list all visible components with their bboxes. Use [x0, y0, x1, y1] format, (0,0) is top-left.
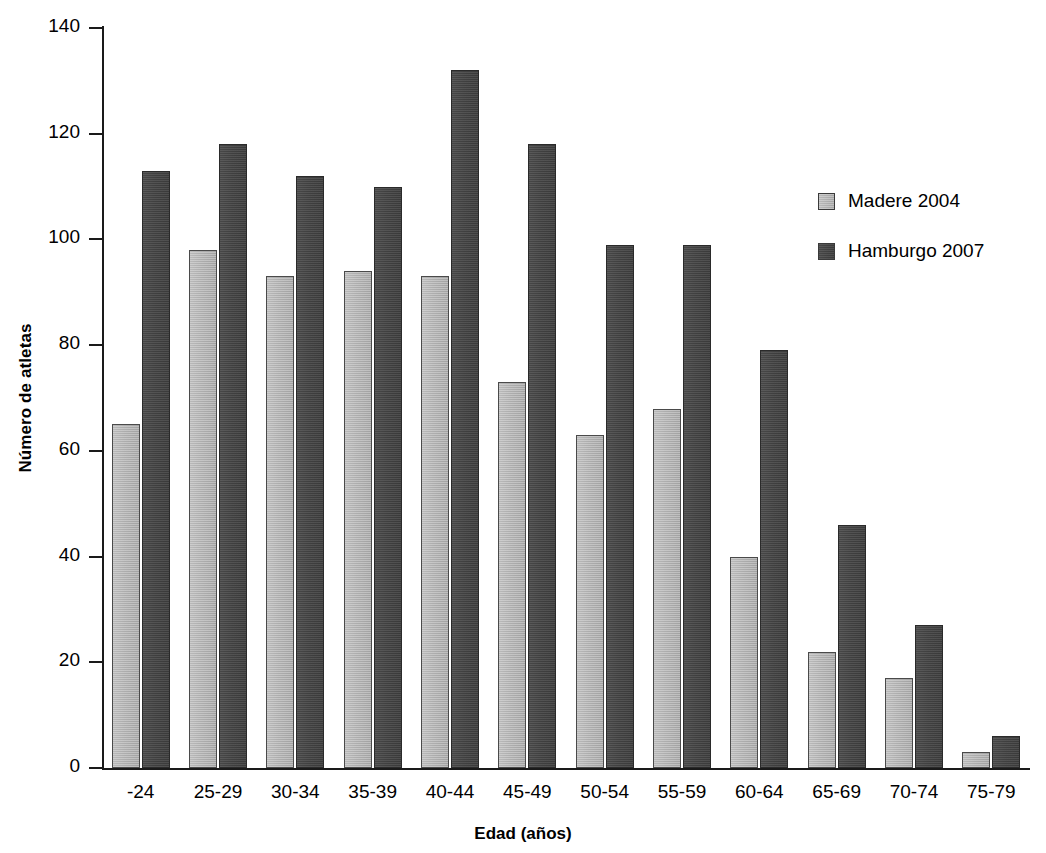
bar-madere-2004: [962, 752, 990, 768]
bar-hamburgo-2007: [992, 736, 1020, 768]
x-axis-tick-label: 25-29: [179, 781, 256, 803]
legend-label: Hamburgo 2007: [848, 240, 984, 262]
y-axis-tick: [89, 344, 102, 346]
bar-group: [875, 28, 952, 768]
bar-hamburgo-2007: [219, 144, 247, 768]
y-axis-tick: [89, 661, 102, 663]
bar-madere-2004: [730, 557, 758, 768]
bar-chart: Número de atletas 020406080100120140 -24…: [0, 0, 1046, 853]
x-axis-line: [102, 768, 1030, 770]
x-axis-tick-label: 60-64: [721, 781, 798, 803]
y-axis-tick: [89, 556, 102, 558]
x-axis-tick-label: -24: [102, 781, 179, 803]
y-axis-tick-label: 100: [0, 226, 80, 248]
x-axis-tick-label: 30-34: [257, 781, 334, 803]
bar-madere-2004: [344, 271, 372, 768]
y-axis-tick: [89, 450, 102, 452]
legend-label: Madere 2004: [848, 190, 960, 212]
x-axis-tick-label: 45-49: [489, 781, 566, 803]
bar-madere-2004: [653, 409, 681, 768]
chart-legend: Madere 2004Hamburgo 2007: [818, 190, 984, 290]
x-axis-tick-label: 75-79: [953, 781, 1030, 803]
bar-group: [721, 28, 798, 768]
y-axis-tick: [89, 133, 102, 135]
bar-group: [798, 28, 875, 768]
bar-group: [953, 28, 1030, 768]
bar-group: [411, 28, 488, 768]
bar-group: [102, 28, 179, 768]
y-axis-tick: [89, 27, 102, 29]
bar-madere-2004: [808, 652, 836, 768]
bar-madere-2004: [189, 250, 217, 768]
legend-swatch-icon: [818, 243, 835, 260]
bar-hamburgo-2007: [838, 525, 866, 768]
bar-hamburgo-2007: [296, 176, 324, 768]
y-axis-tick-label: 120: [0, 121, 80, 143]
bar-hamburgo-2007: [606, 245, 634, 768]
bar-hamburgo-2007: [915, 625, 943, 768]
y-axis-tick: [89, 238, 102, 240]
bar-madere-2004: [112, 424, 140, 768]
legend-item: Madere 2004: [818, 190, 984, 212]
y-axis-tick-label: 20: [0, 649, 80, 671]
y-axis-tick-label: 0: [0, 755, 80, 777]
bar-group: [334, 28, 411, 768]
x-axis-tick-label: 40-44: [411, 781, 488, 803]
bar-group: [179, 28, 256, 768]
bar-madere-2004: [266, 276, 294, 768]
x-axis-title: Edad (años): [0, 824, 1046, 844]
y-axis-tick: [89, 767, 102, 769]
bar-madere-2004: [885, 678, 913, 768]
y-axis-tick-label: 60: [0, 438, 80, 460]
plot-area: [102, 28, 1030, 768]
bar-hamburgo-2007: [374, 187, 402, 768]
x-axis-tick-label: 65-69: [798, 781, 875, 803]
legend-item: Hamburgo 2007: [818, 240, 984, 262]
y-axis-tick-label: 40: [0, 544, 80, 566]
x-axis-tick-label: 50-54: [566, 781, 643, 803]
y-axis-tick-label: 140: [0, 15, 80, 37]
bar-hamburgo-2007: [142, 171, 170, 768]
bar-group: [489, 28, 566, 768]
bar-madere-2004: [421, 276, 449, 768]
bar-group: [257, 28, 334, 768]
bar-group: [643, 28, 720, 768]
x-axis-tick-label: 70-74: [875, 781, 952, 803]
legend-swatch-icon: [818, 193, 835, 210]
y-axis-tick-label: 80: [0, 332, 80, 354]
bar-hamburgo-2007: [528, 144, 556, 768]
bar-madere-2004: [576, 435, 604, 768]
bar-hamburgo-2007: [683, 245, 711, 768]
x-axis-tick-label: 55-59: [643, 781, 720, 803]
bar-hamburgo-2007: [760, 350, 788, 768]
bar-group: [566, 28, 643, 768]
x-axis-tick-label: 35-39: [334, 781, 411, 803]
bar-hamburgo-2007: [451, 70, 479, 768]
bar-madere-2004: [498, 382, 526, 768]
